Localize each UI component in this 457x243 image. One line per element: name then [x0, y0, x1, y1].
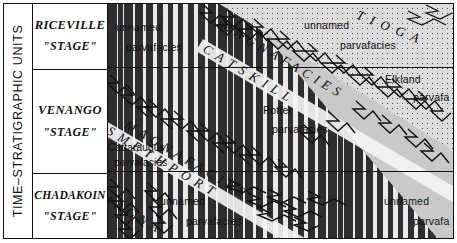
figure-border: [3, 3, 454, 239]
stratigraphic-facies-diagram: TIME–STRATIGRAPHIC UNITS RICEVILLE "STAG…: [0, 0, 457, 243]
